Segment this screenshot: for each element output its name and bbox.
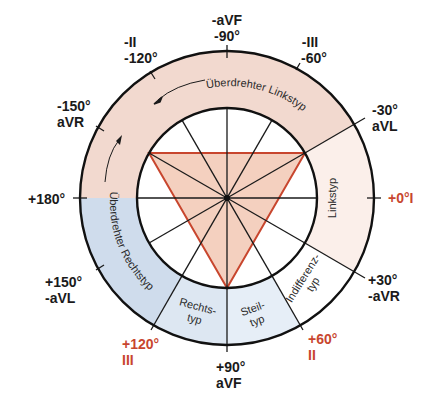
- axis-label-neg60: -III -60°: [301, 34, 327, 66]
- svg-text:-150°: -150°: [57, 98, 91, 114]
- svg-text:II: II: [308, 347, 316, 363]
- svg-text:-aVR: -aVR: [368, 288, 400, 304]
- svg-text:-II: -II: [124, 34, 136, 50]
- svg-text:-60°: -60°: [301, 50, 327, 66]
- center-dot: [224, 195, 230, 201]
- svg-text:-aVF: -aVF: [212, 12, 243, 28]
- axis-label-pos120: +120° III: [122, 336, 159, 368]
- svg-text:-120°: -120°: [124, 50, 158, 66]
- svg-text:aVL: aVL: [372, 118, 398, 134]
- svg-text:-90°: -90°: [214, 28, 240, 44]
- axis-label-neg150: -150° aVR: [57, 98, 91, 130]
- axis-label-pos90: +90° aVF: [216, 359, 245, 391]
- axis-label-pos180: +180°: [28, 191, 65, 207]
- svg-text:-III: -III: [302, 34, 318, 50]
- svg-text:+150°: +150°: [45, 274, 82, 290]
- axis-label-neg30: -30° aVL: [372, 102, 398, 134]
- axis-label-pos0: +0°I: [388, 190, 413, 206]
- cabrera-circle-diagram: Überdrehter Linkstyp Überdrehter Rechtst…: [0, 0, 424, 410]
- axis-label-neg120: -II -120°: [124, 34, 158, 66]
- svg-text:-30°: -30°: [372, 102, 398, 118]
- svg-text:+30°: +30°: [368, 272, 397, 288]
- svg-text:+0°I: +0°I: [388, 190, 413, 206]
- svg-text:+120°: +120°: [122, 336, 159, 352]
- zone-label-linkstyp: Linkstyp: [326, 178, 338, 218]
- axis-label-pos150: +150° -aVL: [45, 274, 82, 306]
- svg-text:aVF: aVF: [216, 375, 242, 391]
- svg-text:-aVL: -aVL: [45, 290, 76, 306]
- svg-text:+60°: +60°: [308, 331, 337, 347]
- svg-text:+90°: +90°: [216, 359, 245, 375]
- svg-text:III: III: [122, 352, 134, 368]
- axis-label-pos60: +60° II: [308, 331, 337, 363]
- axis-label-neg90: -aVF -90°: [212, 12, 243, 44]
- svg-text:aVR: aVR: [57, 114, 84, 130]
- axis-label-pos30: +30° -aVR: [368, 272, 400, 304]
- svg-text:+180°: +180°: [28, 191, 65, 207]
